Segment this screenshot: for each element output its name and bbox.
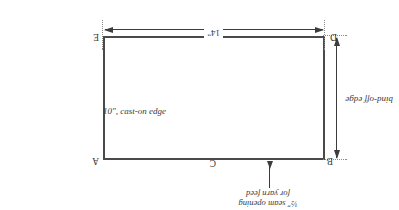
- cast-on-edge-label: 10", cast-on edge: [103, 106, 166, 116]
- corner-label-d: D: [330, 31, 337, 42]
- width-arrow-right-icon: [104, 27, 113, 33]
- rotated-figure-group: A B C D E 14" 10", cast-on edge bind-off…: [0, 0, 399, 210]
- corner-label-c: C: [210, 157, 216, 168]
- width-dimension-label: 14": [204, 28, 223, 38]
- height-arrow-up-icon: [334, 150, 340, 159]
- seam-opening-note: ½" seam opening for yarn feed: [221, 188, 315, 208]
- seam-opening-note-line2: for yarn feed: [221, 188, 315, 198]
- width-arrow-left-icon: [315, 27, 324, 33]
- corner-label-a: A: [92, 155, 99, 166]
- extension-line-right: [102, 20, 103, 50]
- diagram-canvas: A B C D E 14" 10", cast-on edge bind-off…: [0, 0, 399, 210]
- height-dimension-line: [336, 38, 337, 158]
- seam-pointer-arrow-icon: [267, 161, 273, 169]
- corner-label-b: B: [327, 155, 333, 166]
- corner-label-e: E: [93, 31, 99, 42]
- bind-off-edge-label: bind-off edge: [345, 95, 393, 105]
- seam-opening-note-line1: ½" seam opening: [221, 198, 315, 208]
- panel-rectangle: [103, 36, 325, 160]
